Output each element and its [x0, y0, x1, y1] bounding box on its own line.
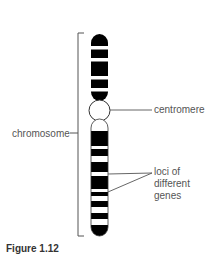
chromosome-lower-arm [90, 119, 109, 237]
chromosome-label: chromosome [12, 128, 70, 139]
centromere [89, 100, 110, 121]
centromere-label: centromere [154, 104, 205, 115]
locus-leader-line-2 [108, 173, 152, 192]
figure-caption: Figure 1.12 [6, 243, 59, 254]
chromosome-upper-arm [90, 33, 109, 103]
locus-leader-line-1 [108, 173, 152, 174]
loci-label-line1: loci of [154, 166, 180, 177]
loci-label-line2: different [154, 178, 190, 189]
chromosome-bracket [70, 33, 84, 236]
loci-label-line3: genes [154, 190, 181, 201]
